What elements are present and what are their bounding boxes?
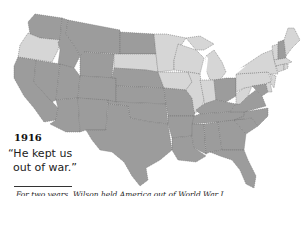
state-arkansas [168,116,194,138]
state-rhode-island [284,64,288,70]
state-maine [284,28,300,56]
campaign-slogan: “He kept us out of war.” [8,147,77,175]
state-colorado [78,76,116,102]
state-florida [210,150,256,188]
divider-rule [14,186,72,187]
state-new-york [236,50,278,74]
state-michigan [206,50,226,80]
state-ohio [214,78,236,102]
state-new-mexico [78,98,108,132]
slogan-line-2: out of war.” [8,161,77,175]
state-wyoming [80,52,114,78]
slogan-line-1: “He kept us [8,147,72,160]
election-year: 1916 [14,132,42,143]
state-utah [56,64,80,100]
state-kansas [116,86,166,104]
caption-text: For two years, Wilson held America out o… [16,190,224,196]
state-north-dakota [120,32,156,54]
